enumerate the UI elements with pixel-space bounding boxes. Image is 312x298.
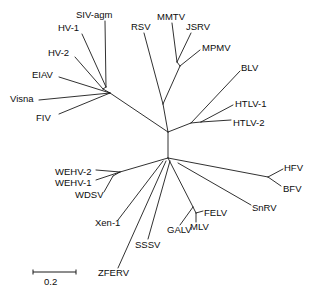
branch-delta-htlv-stem bbox=[191, 122, 201, 123]
taxon-label-fiv: FIV bbox=[36, 113, 51, 123]
branch-hiv-siv-stem bbox=[103, 87, 106, 89]
scale-bar-label: 0.2 bbox=[44, 277, 57, 287]
branch-tip-rsv bbox=[144, 33, 163, 104]
taxon-label-blv: BLV bbox=[241, 63, 258, 73]
branch-beta-mmtv-jsrv bbox=[177, 62, 180, 66]
taxon-label-bfv: BFV bbox=[283, 184, 301, 194]
branch-tip-wdsv bbox=[104, 176, 113, 192]
taxon-label-htlv-1: HTLV-1 bbox=[235, 99, 267, 109]
taxon-label-visna: Visna bbox=[10, 94, 34, 104]
branch-tip-wehv-2 bbox=[96, 170, 120, 172]
taxon-label-wehv-1: WEHV-1 bbox=[55, 178, 91, 188]
taxon-label-xen-1: Xen-1 bbox=[95, 218, 120, 228]
branch-tip-zferv bbox=[118, 161, 166, 268]
phylogenetic-tree-figure: SIV-agmHV-1HV-2EIAVVisnaFIVRSVMMTVJSRVMP… bbox=[0, 0, 312, 298]
taxon-label-rsv: RSV bbox=[131, 22, 151, 32]
branch-alpha-to-betaretro bbox=[163, 66, 180, 104]
taxon-label-siv-agm: SIV-agm bbox=[76, 10, 112, 20]
taxon-label-hfv: HFV bbox=[284, 163, 303, 173]
taxon-label-eiav: EIAV bbox=[32, 70, 53, 80]
taxon-label-hv-1: HV-1 bbox=[58, 23, 79, 33]
branch-tip-wehv-1 bbox=[96, 172, 120, 180]
taxon-label-mlv: MLV bbox=[190, 222, 209, 232]
taxon-label-wehv-2: WEHV-2 bbox=[55, 167, 91, 177]
branch-tip-mpmv bbox=[180, 50, 200, 66]
internal-branches bbox=[103, 62, 268, 213]
branch-root-to-deltaretro bbox=[168, 123, 191, 132]
branch-tip-bfv bbox=[268, 177, 281, 186]
taxon-label-jsrv: JSRV bbox=[186, 22, 210, 32]
branch-root-to-lentivirus bbox=[110, 93, 168, 132]
scale-bar bbox=[33, 270, 76, 275]
taxon-label-sssv: SSSV bbox=[135, 240, 160, 250]
tree-canvas bbox=[0, 0, 312, 298]
branch-tip-mmtv bbox=[172, 23, 177, 62]
branch-hub-to-epsilon bbox=[120, 158, 168, 172]
branch-root-to-alpharetro bbox=[163, 104, 168, 132]
taxon-label-zferv: ZFERV bbox=[98, 268, 129, 278]
branch-tip-hv-2 bbox=[75, 57, 103, 89]
branch-tip-blv bbox=[191, 71, 240, 123]
taxon-label-hv-2: HV-2 bbox=[48, 48, 69, 58]
branch-tip-visna bbox=[39, 93, 110, 100]
branch-tip-felv bbox=[196, 211, 203, 213]
branch-tip-hfv bbox=[268, 169, 283, 177]
taxon-label-snrv: SnRV bbox=[252, 203, 277, 213]
branch-gamma-mlv-felv-stem bbox=[193, 207, 196, 213]
taxon-label-mmtv: MMTV bbox=[157, 12, 185, 22]
branch-hub-to-gamma bbox=[168, 158, 193, 207]
branch-hub-to-spuma bbox=[168, 158, 268, 177]
taxon-label-galv: GALV bbox=[167, 225, 192, 235]
taxon-label-mpmv: MPMV bbox=[202, 43, 231, 53]
taxon-label-htlv-2: HTLV-2 bbox=[233, 118, 265, 128]
taxon-label-wdsv: WDSV bbox=[75, 190, 104, 200]
taxon-label-felv: FELV bbox=[204, 208, 227, 218]
branch-tip-htlv-2 bbox=[201, 120, 231, 122]
taxon-branch-lines bbox=[39, 21, 283, 268]
branch-tip-jsrv bbox=[177, 33, 191, 62]
branch-tip-fiv bbox=[59, 93, 110, 114]
branch-tip-siv-agm bbox=[105, 21, 106, 87]
